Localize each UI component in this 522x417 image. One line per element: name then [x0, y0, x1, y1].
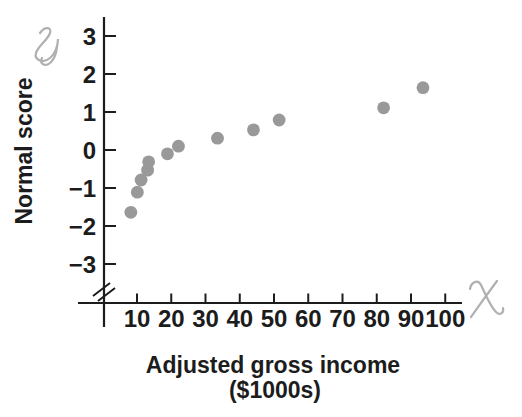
x-axis-title-line2: ($1000s): [229, 379, 321, 402]
x-tick-label: 70: [329, 305, 356, 332]
y-tick-label: 3: [83, 23, 96, 50]
data-point: [377, 101, 390, 114]
data-point: [247, 123, 260, 136]
data-point: [124, 206, 137, 219]
data-point: [417, 81, 430, 94]
normal-probability-plot-figure: 3210−1−2−3102030405060708090100 Normal s…: [0, 0, 522, 417]
y-tick-label: 2: [83, 61, 96, 88]
x-tick-label: 30: [192, 305, 219, 332]
script-y-symbol-icon: [36, 28, 58, 65]
data-point: [142, 155, 155, 168]
x-tick-label: 50: [261, 305, 288, 332]
x-tick-label: 60: [295, 305, 322, 332]
data-point: [273, 114, 286, 127]
data-point: [131, 186, 144, 199]
y-axis-title: Normal score: [13, 77, 36, 224]
y-tick-label: −2: [69, 213, 96, 240]
data-point: [211, 132, 224, 145]
y-tick-label: 0: [83, 137, 96, 164]
y-tick-label: −1: [69, 175, 96, 202]
data-point: [161, 147, 174, 160]
x-axis-title-line1: Adjusted gross income: [146, 354, 400, 377]
x-tick-label: 80: [363, 305, 390, 332]
x-tick-label: 90: [398, 305, 425, 332]
x-tick-label: 40: [226, 305, 253, 332]
y-tick-label: 1: [83, 99, 96, 126]
x-tick-label: 10: [124, 305, 151, 332]
script-x-symbol-icon: [470, 281, 503, 317]
x-tick-label: 20: [158, 305, 185, 332]
x-tick-label: 100: [425, 305, 465, 332]
data-point: [172, 140, 185, 153]
y-tick-label: −3: [69, 251, 96, 278]
